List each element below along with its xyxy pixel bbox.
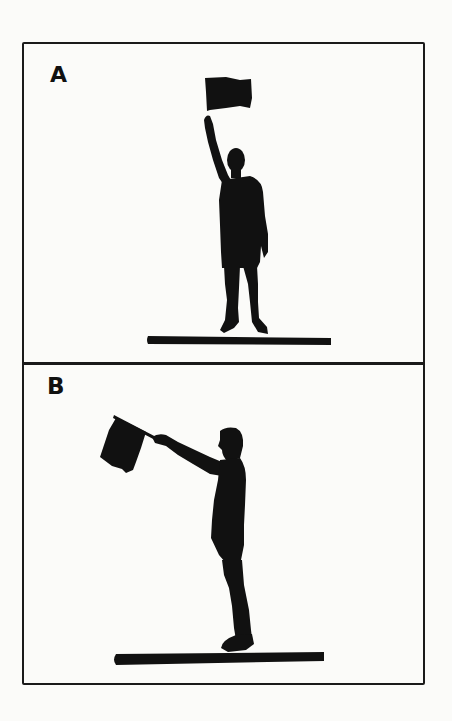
panel-b-figure xyxy=(100,415,324,665)
ground-b xyxy=(114,652,324,665)
flag-b-icon xyxy=(100,418,146,473)
flag-a-icon xyxy=(205,77,252,111)
ground-a xyxy=(147,336,331,345)
panel-a-figure xyxy=(147,77,331,345)
illustration xyxy=(0,0,452,721)
